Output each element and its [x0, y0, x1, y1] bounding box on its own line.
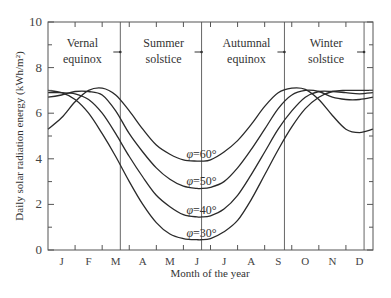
- month-label: M: [111, 255, 121, 267]
- event-label: solstice: [146, 52, 182, 66]
- month-label: J: [59, 255, 64, 267]
- solar-radiation-chart: 0246810 JFMAMJJASOND VernalequinoxSummer…: [0, 0, 391, 298]
- curve-30deg: [48, 90, 373, 240]
- month-label: S: [275, 255, 281, 267]
- y-tick-label: 8: [36, 60, 43, 75]
- y-axis-title: Daily solar radiation energy (kWh/m²): [13, 51, 26, 221]
- event-label: solstice: [308, 52, 344, 66]
- event-labels: VernalequinoxSummersolsticeAutumnalequin…: [63, 36, 365, 66]
- event-arrow-dot: [119, 51, 122, 54]
- x-axis-title: Month of the year: [170, 267, 249, 279]
- y-tick-label: 4: [36, 151, 43, 166]
- month-label: N: [328, 255, 336, 267]
- month-label: A: [247, 255, 255, 267]
- month-label: D: [355, 255, 363, 267]
- y-tick-label: 10: [29, 14, 42, 29]
- event-arrow-dot: [363, 51, 366, 54]
- event-label: Autumnal: [222, 36, 271, 50]
- event-label: Winter: [310, 36, 343, 50]
- latitude-curves: [48, 88, 373, 240]
- event-arrow-dot: [283, 51, 286, 54]
- latitude-label: φ=50°: [186, 174, 216, 188]
- latitude-label: φ=40°: [186, 203, 216, 217]
- event-label: Vernal: [67, 36, 99, 50]
- event-label: equinox: [63, 52, 102, 66]
- y-tick-label: 2: [36, 196, 43, 211]
- month-label: J: [222, 255, 227, 267]
- month-label: M: [165, 255, 175, 267]
- event-arrow-dot: [200, 51, 203, 54]
- month-label: O: [301, 255, 309, 267]
- month-label: A: [139, 255, 147, 267]
- y-tick-label: 6: [36, 105, 43, 120]
- latitude-label: φ=30°: [186, 226, 216, 240]
- y-tick-label: 0: [36, 242, 43, 257]
- latitude-label: φ=60°: [186, 147, 216, 161]
- event-label: equinox: [227, 52, 266, 66]
- y-axis-ticks: 0246810: [29, 14, 373, 257]
- month-label: J: [195, 255, 200, 267]
- month-label: F: [86, 255, 92, 267]
- event-label: Summer: [143, 36, 184, 50]
